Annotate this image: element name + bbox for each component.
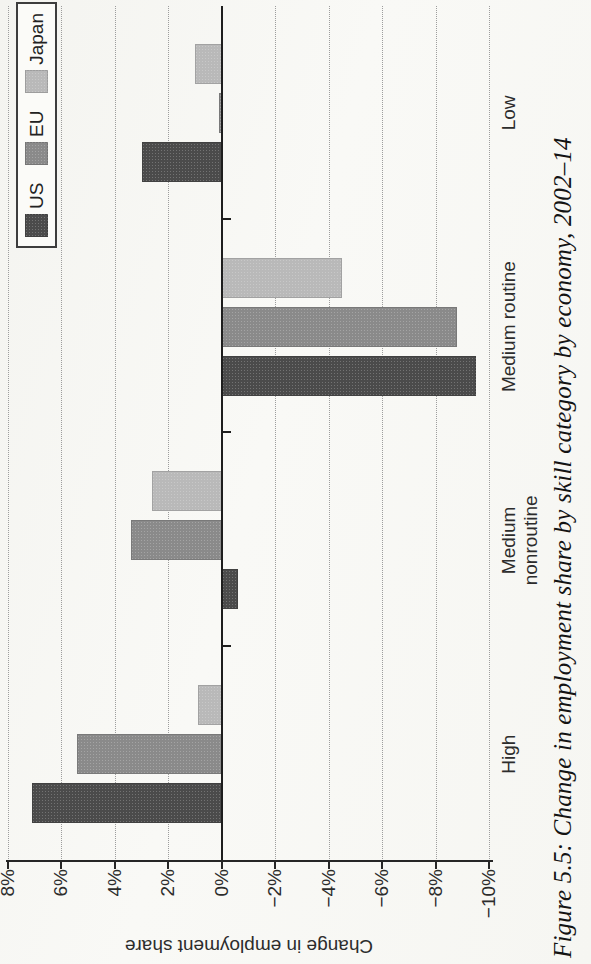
legend-item-us: US (25, 183, 48, 237)
book-page-photo: 8%6%4%2%0%−2%−4%−6%−8%−10%HighMedium non… (0, 0, 591, 964)
legend-label-eu: EU (25, 110, 48, 136)
legend: USEUJapan (16, 2, 57, 248)
legend-item-japan: Japan (25, 13, 48, 93)
figure-caption: Figure 5.5: Change in employment share b… (549, 4, 577, 958)
legend-swatch-eu (25, 142, 48, 165)
y-axis-title: Change in employment share (124, 935, 372, 957)
legend-label-us: US (25, 183, 48, 209)
category-label-medium: Medium nonroutine (498, 434, 542, 648)
y-axis-title-band: Change in employment share (8, 928, 489, 964)
legend-label-japan: Japan (25, 13, 48, 65)
category-label-medium-routine: Medium routine (498, 220, 520, 434)
plot-labels: 8%6%4%2%0%−2%−4%−6%−8%−10%HighMedium non… (0, 0, 591, 964)
figure-5-5: 8%6%4%2%0%−2%−4%−6%−8%−10%HighMedium non… (0, 0, 591, 964)
legend-swatch-us (25, 214, 48, 237)
legend-swatch-japan (25, 70, 48, 93)
category-label-high: High (498, 647, 520, 861)
legend-item-eu: EU (25, 110, 48, 164)
category-label-low: Low (498, 6, 520, 220)
